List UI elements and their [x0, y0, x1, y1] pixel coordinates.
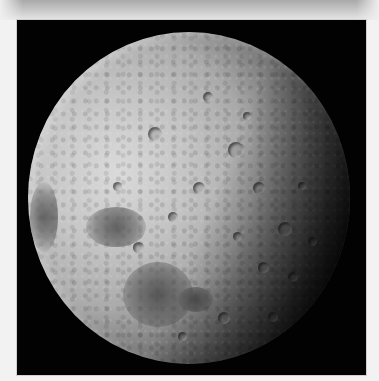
top-blurred-band — [0, 0, 379, 20]
moon-photo — [17, 20, 366, 375]
limb-glow — [28, 32, 350, 364]
moon-disc — [28, 32, 350, 364]
